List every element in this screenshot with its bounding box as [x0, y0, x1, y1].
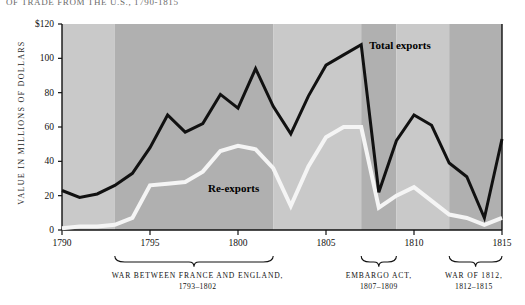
background-bands — [62, 24, 502, 230]
caption-war-of-1812: WAR OF 1812,1812–1815 — [445, 270, 503, 292]
x-axis-tick-label: 1810 — [405, 238, 424, 248]
plot-area — [0, 0, 525, 305]
x-axis-tick-label: 1815 — [493, 238, 512, 248]
period-brace — [361, 256, 396, 267]
caption-line-1: WAR BETWEEN FRANCE AND ENGLAND, — [112, 270, 284, 281]
caption-embargo-act: EMBARGO ACT,1807–1809 — [346, 270, 412, 292]
x-axis-tick-label: 1800 — [229, 238, 248, 248]
background-band — [62, 24, 115, 230]
total-exports-label: Total exports — [369, 39, 431, 51]
period-braces — [115, 256, 502, 267]
caption-line-1: EMBARGO ACT, — [346, 270, 412, 281]
x-axis-tick-label: 1805 — [317, 238, 336, 248]
caption-line-2: 1807–1809 — [346, 281, 412, 292]
caption-line-1: WAR OF 1812, — [445, 270, 503, 281]
caption-line-2: 1812–1815 — [445, 281, 503, 292]
x-axis-tick-label: 1795 — [141, 238, 160, 248]
x-axis-tick-label: 1790 — [53, 238, 72, 248]
caption-line-2: 1793–1802 — [112, 281, 284, 292]
reexports-label: Re-exports — [208, 182, 259, 194]
chart-figure: OF TRADE FROM THE U.S., 1790-1815 VALUE … — [0, 0, 525, 305]
period-brace — [115, 256, 273, 267]
period-brace — [449, 256, 502, 267]
caption-war-france-england: WAR BETWEEN FRANCE AND ENGLAND,1793–1802 — [112, 270, 284, 292]
